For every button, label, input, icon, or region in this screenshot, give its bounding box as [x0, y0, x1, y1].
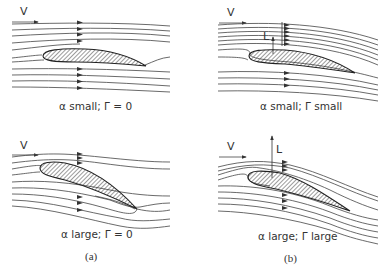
panel-a-bottom	[12, 152, 170, 228]
panel-caption: α large; Γ = 0	[61, 228, 133, 240]
airfoil-flow-diagram	[0, 0, 387, 268]
velocity-label: V	[20, 5, 28, 18]
airfoil-shape	[40, 162, 137, 209]
panel-caption: α large; Γ large	[258, 230, 338, 242]
velocity-label: V	[227, 6, 235, 19]
velocity-label: V	[20, 139, 28, 152]
velocity-label: V	[227, 140, 235, 153]
panel-b-top	[218, 22, 378, 101]
airfoil-shape	[43, 49, 146, 66]
sublabel-a: (a)	[85, 250, 97, 262]
panel-a-top	[12, 21, 170, 93]
lift-label: L	[263, 30, 269, 43]
lift-label: L	[276, 143, 282, 156]
panel-b-bottom	[218, 136, 378, 244]
panel-caption: α small; Γ = 0	[59, 100, 132, 112]
airfoil-shape	[249, 50, 355, 73]
panel-caption: α small; Γ small	[260, 100, 342, 112]
sublabel-b: (b)	[284, 252, 297, 264]
